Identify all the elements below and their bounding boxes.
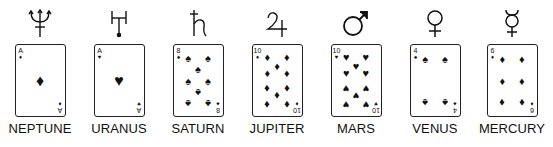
playing-card: A♦A♦♦ bbox=[15, 44, 66, 117]
diamonds-pip-icon: ♦ bbox=[499, 96, 505, 107]
venus-symbol-icon bbox=[396, 4, 475, 38]
diamonds-suit-icon: ♦ bbox=[56, 100, 64, 107]
saturn-symbol-icon bbox=[159, 4, 238, 38]
spades-suit-icon: ♠ bbox=[412, 54, 420, 61]
diamonds-pip-icon: ♦ bbox=[519, 54, 525, 65]
uranus-symbol-icon bbox=[80, 4, 159, 38]
spades-pip-icon: ♠ bbox=[442, 96, 448, 107]
spades-pip-icon: ♠ bbox=[185, 98, 191, 109]
card-rank: 4 bbox=[412, 47, 420, 54]
playing-card: 10♥10♥♥♥♥♥♥♥♥♥♥♥ bbox=[331, 44, 382, 117]
mercury-symbol-icon bbox=[473, 4, 552, 38]
diamonds-suit-icon: ♦ bbox=[17, 54, 25, 61]
card-index-top-left: A♥ bbox=[96, 47, 104, 61]
card-rank: 10 bbox=[254, 47, 262, 54]
card-rank: 6 bbox=[528, 107, 536, 114]
mars-symbol-icon bbox=[317, 4, 396, 38]
card-index-top-left: 10♦ bbox=[254, 47, 262, 61]
card-index-top-left: 6♦ bbox=[489, 47, 497, 61]
diamonds-pip-icon: ♦ bbox=[499, 54, 505, 65]
diamonds-pip-icon: ♦ bbox=[264, 98, 270, 109]
diamonds-pip-icon: ♦ bbox=[284, 68, 290, 79]
hearts-pip-icon: ♥ bbox=[343, 52, 350, 63]
card-index-top-left: 10♥ bbox=[333, 47, 341, 61]
planet-column-uranus: A♥A♥♥URANUS bbox=[80, 0, 159, 147]
spades-pip-icon: ♠ bbox=[195, 86, 201, 97]
spades-pip-icon: ♠ bbox=[442, 54, 448, 65]
diamonds-pip-icon: ♦ bbox=[274, 89, 280, 100]
card-index-bottom-right: 6♦ bbox=[528, 100, 536, 114]
card-index-bottom-right: A♦ bbox=[56, 100, 64, 114]
spades-pip-icon: ♠ bbox=[422, 96, 428, 107]
planet-column-saturn: 8♠8♠♠♠♠♠♠♠♠♠SATURN bbox=[159, 0, 238, 147]
hearts-pip-icon: ♥ bbox=[343, 98, 350, 109]
diamonds-suit-icon: ♦ bbox=[528, 100, 536, 107]
spades-pip-icon: ♠ bbox=[185, 75, 191, 86]
diamonds-pip-icon: ♦ bbox=[284, 98, 290, 109]
card-rank: 10 bbox=[372, 107, 380, 114]
spades-pip-icon: ♠ bbox=[205, 75, 211, 86]
card-rank: A bbox=[17, 47, 25, 54]
card-index-bottom-right: A♥ bbox=[135, 100, 143, 114]
diamonds-pip-icon: ♦ bbox=[519, 96, 525, 107]
spades-pip-icon: ♠ bbox=[195, 64, 201, 75]
hearts-pip-icon: ♥ bbox=[363, 52, 370, 63]
hearts-pip-icon: ♥ bbox=[353, 89, 360, 100]
card-index-bottom-right: 10♥ bbox=[372, 100, 380, 114]
card-index-bottom-right: 8♠ bbox=[214, 100, 222, 114]
spades-suit-icon: ♠ bbox=[175, 54, 183, 61]
card-rank: 8 bbox=[175, 47, 183, 54]
card-rank: A bbox=[96, 47, 104, 54]
diamonds-pip-icon: ♦ bbox=[36, 73, 44, 89]
card-rank: A bbox=[56, 107, 64, 114]
hearts-suit-icon: ♥ bbox=[135, 100, 143, 107]
spades-pip-icon: ♠ bbox=[205, 52, 211, 63]
hearts-pip-icon: ♥ bbox=[114, 73, 124, 89]
hearts-pip-icon: ♥ bbox=[363, 68, 370, 79]
diamonds-pip-icon: ♦ bbox=[264, 52, 270, 63]
spades-pip-icon: ♠ bbox=[422, 54, 428, 65]
planet-column-mercury: 6♦6♦♦♦♦♦♦♦MERCURY bbox=[473, 0, 552, 147]
card-rank: A bbox=[135, 107, 143, 114]
card-rank: 10 bbox=[293, 107, 301, 114]
spades-pip-icon: ♠ bbox=[185, 52, 191, 63]
diamonds-pip-icon: ♦ bbox=[499, 75, 505, 86]
playing-card: 8♠8♠♠♠♠♠♠♠♠♠ bbox=[173, 44, 224, 117]
hearts-pip-icon: ♥ bbox=[353, 61, 360, 72]
diamonds-suit-icon: ♦ bbox=[254, 54, 262, 61]
diamonds-suit-icon: ♦ bbox=[489, 54, 497, 61]
playing-card: 4♠4♠♠♠♠♠ bbox=[410, 44, 461, 117]
spades-pip-icon: ♠ bbox=[205, 98, 211, 109]
diamonds-pip-icon: ♦ bbox=[264, 68, 270, 79]
spades-suit-icon: ♠ bbox=[451, 100, 459, 107]
hearts-suit-icon: ♥ bbox=[333, 54, 341, 61]
playing-card: 6♦6♦♦♦♦♦♦♦ bbox=[487, 44, 538, 117]
playing-card: 10♦10♦♦♦♦♦♦♦♦♦♦♦ bbox=[252, 44, 303, 117]
card-rank: 4 bbox=[451, 107, 459, 114]
neptune-symbol-icon bbox=[1, 4, 80, 38]
planet-label: MERCURY bbox=[463, 121, 553, 136]
card-rank: 8 bbox=[214, 107, 222, 114]
hearts-pip-icon: ♥ bbox=[363, 98, 370, 109]
jupiter-symbol-icon bbox=[238, 4, 317, 38]
diamonds-pip-icon: ♦ bbox=[264, 82, 270, 93]
card-rank: 6 bbox=[489, 47, 497, 54]
diamonds-pip-icon: ♦ bbox=[274, 61, 280, 72]
hearts-pip-icon: ♥ bbox=[343, 82, 350, 93]
planet-column-jupiter: 10♦10♦♦♦♦♦♦♦♦♦♦♦JUPITER bbox=[238, 0, 317, 147]
playing-card: A♥A♥♥ bbox=[94, 44, 145, 117]
diamonds-suit-icon: ♦ bbox=[293, 100, 301, 107]
hearts-pip-icon: ♥ bbox=[363, 82, 370, 93]
card-index-top-left: 4♠ bbox=[412, 47, 420, 61]
card-rank: 10 bbox=[333, 47, 341, 54]
spades-suit-icon: ♠ bbox=[214, 100, 222, 107]
planet-column-mars: 10♥10♥♥♥♥♥♥♥♥♥♥♥MARS bbox=[317, 0, 396, 147]
card-index-bottom-right: 10♦ bbox=[293, 100, 301, 114]
diamonds-pip-icon: ♦ bbox=[284, 82, 290, 93]
planet-column-neptune: A♦A♦♦NEPTUNE bbox=[1, 0, 80, 147]
diamonds-pip-icon: ♦ bbox=[284, 52, 290, 63]
card-index-top-left: A♦ bbox=[17, 47, 25, 61]
card-index-bottom-right: 4♠ bbox=[451, 100, 459, 114]
hearts-pip-icon: ♥ bbox=[343, 68, 350, 79]
hearts-suit-icon: ♥ bbox=[96, 54, 104, 61]
